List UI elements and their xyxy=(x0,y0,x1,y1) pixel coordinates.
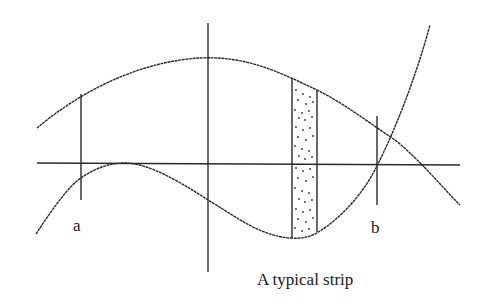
caption-typical-strip: A typical strip xyxy=(257,271,353,288)
area-between-curves-diagram xyxy=(0,0,485,304)
diagram-canvas: a b A typical strip xyxy=(0,0,485,304)
upper-curve xyxy=(37,58,460,205)
label-a: a xyxy=(73,217,81,234)
label-b: b xyxy=(371,219,380,236)
typical-strip xyxy=(292,78,317,238)
x-axis xyxy=(37,163,460,165)
lower-curve xyxy=(36,25,430,238)
